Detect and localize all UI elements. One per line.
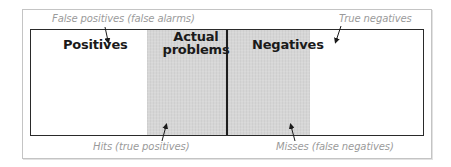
positives-label: Positives (63, 37, 128, 52)
actual-problems-label: Actual problems (150, 30, 242, 56)
hits-callout: Hits (true positives) (93, 141, 189, 152)
false-positives-callout: False positives (false alarms) (52, 13, 195, 24)
misses-callout: Misses (false negatives) (276, 141, 394, 152)
true-negatives-callout: True negatives (339, 13, 412, 24)
negatives-label: Negatives (252, 37, 324, 52)
